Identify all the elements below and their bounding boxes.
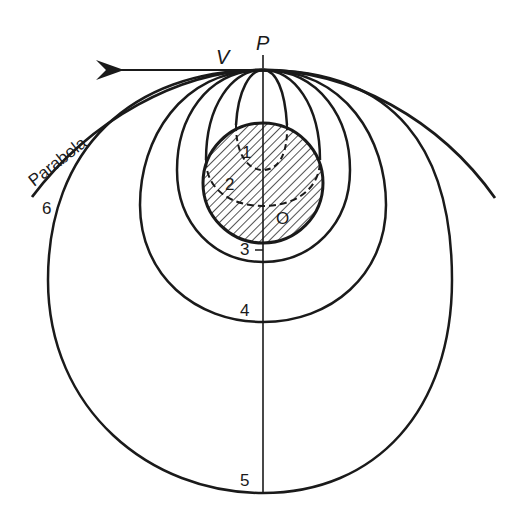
label-orbit-5: 5 bbox=[240, 471, 249, 490]
label-orbit-1: 1 bbox=[242, 143, 251, 162]
orbit-diagram: P V O 1 2 3 4 5 6 Parabola bbox=[0, 0, 518, 519]
label-v: V bbox=[216, 46, 231, 68]
label-parabola: Parabola bbox=[25, 133, 91, 190]
label-orbit-2: 2 bbox=[225, 175, 234, 194]
label-center-o: O bbox=[276, 209, 289, 228]
orbit-1-outer bbox=[236, 70, 287, 125]
label-orbit-3: 3 bbox=[240, 240, 249, 259]
label-orbit-4: 4 bbox=[240, 301, 249, 320]
label-p: P bbox=[256, 32, 270, 54]
label-orbit-6: 6 bbox=[42, 199, 51, 218]
